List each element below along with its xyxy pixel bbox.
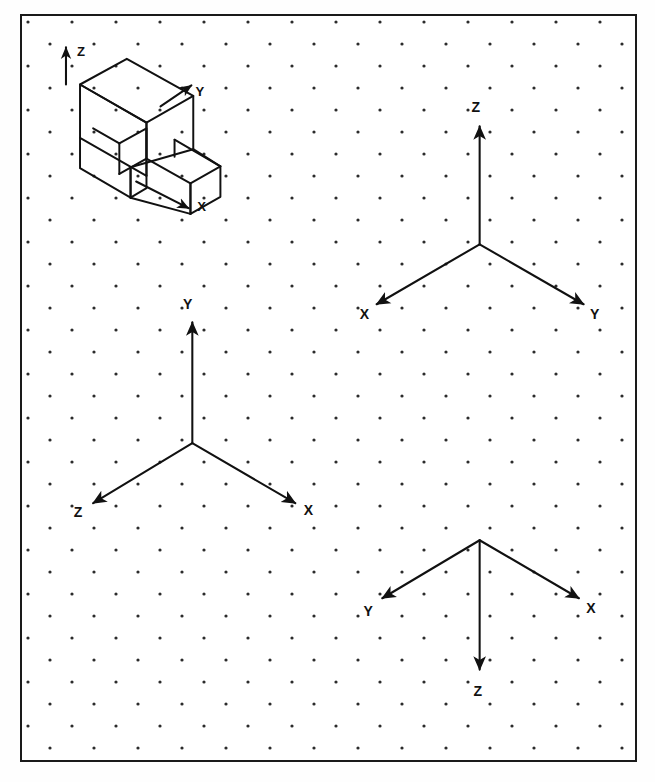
triad-bottom-left-label-y: Y — [183, 296, 193, 312]
block-axis-label-y: Y — [195, 84, 204, 99]
triad-bottom-right-label-x: X — [586, 599, 596, 615]
triad-top-right-axis-x — [377, 244, 480, 304]
triad-bottom-right-label-z: Z — [473, 683, 482, 699]
triad-bottom-right — [382, 540, 579, 669]
triad-top-right-axis-y — [480, 244, 584, 304]
block-axis-label-x: X — [197, 199, 206, 214]
triad-bottom-left-axis-z — [93, 443, 192, 503]
triad-bottom-left-label-z: Z — [74, 504, 83, 520]
triad-top-right-label-x: X — [360, 305, 370, 321]
block-axis-arrows — [66, 47, 191, 208]
drawing-page: Z Y X Z X Y Y Z X — [0, 0, 655, 782]
triad-top-right-label-z: Z — [472, 99, 481, 115]
triad-bottom-left — [93, 322, 295, 503]
isometric-block — [80, 59, 220, 214]
triad-bottom-left-axis-x — [192, 443, 295, 503]
triad-bottom-right-axis-x — [480, 540, 579, 598]
block-y-arrow — [161, 85, 192, 106]
triad-top-right-label-y: Y — [590, 305, 600, 321]
block-axis-label-z: Z — [77, 44, 85, 59]
block-x-arrow — [136, 182, 188, 209]
drawing-frame: Z Y X Z X Y Y Z X — [20, 14, 637, 762]
triad-bottom-right-axis-y — [382, 540, 479, 598]
triad-bottom-left-label-x: X — [304, 502, 314, 518]
triad-top-right — [377, 126, 584, 304]
triad-bottom-right-label-y: Y — [364, 603, 374, 619]
drawing-artwork: Z Y X Z X Y Y Z X — [22, 16, 635, 760]
